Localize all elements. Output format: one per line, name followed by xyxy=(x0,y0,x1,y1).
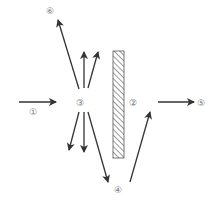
arrow-down-1 xyxy=(69,112,79,150)
label-1: ① xyxy=(29,108,37,117)
label-3: ③ xyxy=(76,99,84,108)
label-2: ② xyxy=(129,99,137,108)
hatched-wall xyxy=(113,51,124,158)
arrow-up-2 xyxy=(88,52,98,88)
label-4: ④ xyxy=(114,186,122,195)
arrow-3-to-4 xyxy=(88,112,108,182)
arrow-3-to-6 xyxy=(58,20,79,89)
diagram-canvas xyxy=(0,0,218,205)
arrow-4-to-2 xyxy=(130,112,150,182)
label-6: ⑥ xyxy=(46,7,54,16)
label-5: ⑤ xyxy=(197,99,205,108)
